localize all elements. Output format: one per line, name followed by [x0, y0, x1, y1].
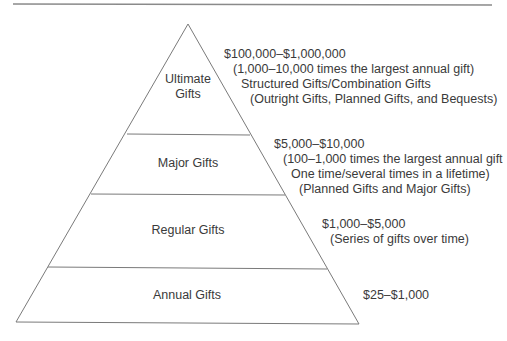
regular-range: $1,000–$5,000 [322, 217, 405, 232]
tier-label-ultimate-line2: Gifts [165, 87, 211, 102]
top-rule [13, 4, 492, 5]
ultimate-detail-2: Structured Gifts/Combination Gifts [241, 77, 431, 92]
tier-label-ultimate-line1: Ultimate [165, 72, 211, 87]
tier-divider-2 [91, 194, 285, 195]
major-detail-3: (Planned Gifts and Major Gifts) [299, 182, 471, 197]
major-detail-1: (100–1,000 times the largest annual gift [283, 152, 503, 167]
tier-label-annual: Annual Gifts [153, 288, 221, 303]
regular-detail-1: (Series of gifts over time) [330, 232, 469, 247]
annual-range: $25–$1,000 [363, 288, 429, 303]
tier-divider-3 [48, 267, 327, 269]
major-range: $5,000–$10,000 [274, 137, 364, 152]
tier-label-ultimate: Ultimate Gifts [165, 72, 211, 102]
major-detail-2: One time/several times in a lifetime) [291, 167, 490, 182]
tier-label-major-text: Major Gifts [158, 156, 218, 170]
ultimate-range: $100,000–$1,000,000 [224, 47, 346, 62]
tier-label-major: Major Gifts [158, 156, 218, 171]
tier-label-regular: Regular Gifts [152, 223, 225, 238]
tier-label-regular-text: Regular Gifts [152, 223, 225, 237]
ultimate-detail-3: (Outright Gifts, Planned Gifts, and Bequ… [250, 92, 497, 107]
tier-label-annual-text: Annual Gifts [153, 288, 221, 302]
ultimate-detail-1: (1,000–10,000 times the largest annual g… [233, 62, 474, 77]
tier-divider-1 [127, 134, 250, 135]
